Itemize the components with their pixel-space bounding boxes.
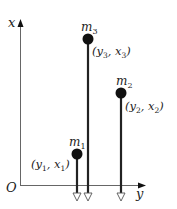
mass-m3: m3 (y3, x3) [81, 20, 131, 201]
coordinate-label: (y1, x1) [31, 157, 70, 173]
force-arrow-down-icon [73, 193, 81, 201]
mass-m2: m2 (y2, x2) [116, 74, 164, 201]
coordinate-label: (y3, x3) [92, 44, 131, 60]
mass-m1: m1 (y1, x1) [31, 135, 85, 201]
vertical-axis: x [8, 15, 24, 185]
mass-label: m1 [69, 135, 85, 151]
mass-ball-icon [116, 88, 127, 99]
axis-arrow-up-icon [18, 19, 24, 27]
force-arrow-down-icon [84, 193, 92, 201]
coordinate-label: (y2, x2) [125, 99, 164, 115]
horizontal-axis-label: y [135, 186, 144, 201]
vertical-axis-label: x [8, 15, 16, 30]
mass-diagram: x y O m3 (y3, x3) m2 (y2, x2) m1 (y1, x1… [0, 0, 177, 209]
mass-label: m3 [81, 20, 97, 36]
force-arrow-down-icon [117, 193, 125, 201]
mass-label: m2 [116, 74, 132, 90]
origin-label: O [6, 180, 17, 195]
